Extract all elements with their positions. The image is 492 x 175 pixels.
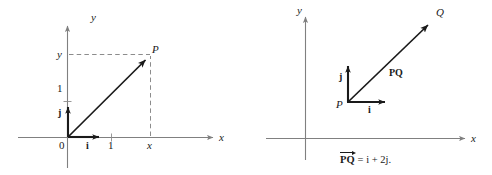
vector-pq-label: PQ xyxy=(389,63,403,79)
unit-vector-i-label: i xyxy=(368,105,371,115)
figure-caption: PQ= i + 2j. xyxy=(340,154,391,165)
unit-vector-j-label: j xyxy=(58,108,61,118)
x-coordinate-label: x xyxy=(147,140,152,151)
position-vector-arrow xyxy=(68,60,146,137)
y-axis-label: y xyxy=(297,5,302,16)
position-vector-panel: y x 0 i 1 x j 1 y P xyxy=(0,0,246,175)
caption-equation: = i + 2j. xyxy=(358,154,391,165)
x-tick-one-label: 1 xyxy=(108,140,114,151)
unit-vector-j-label: j xyxy=(339,72,342,82)
point-p-label: P xyxy=(336,99,343,110)
y-coordinate-label: y xyxy=(57,49,62,60)
point-p-label: P xyxy=(152,44,159,55)
vector-pq-arrow xyxy=(348,25,428,102)
x-axis-label: x xyxy=(219,132,224,143)
x-axis-label: x xyxy=(471,133,476,144)
origin-label: 0 xyxy=(59,140,65,151)
pq-vector-graphic xyxy=(246,0,492,175)
position-vector-graphic xyxy=(0,0,246,175)
caption-vector-pq-text: PQ xyxy=(340,154,355,165)
pq-vector-panel: y x P Q i j PQ PQ= i + 2j. xyxy=(246,0,492,175)
y-axis-label: y xyxy=(91,12,96,23)
point-q-label: Q xyxy=(436,7,444,18)
caption-vector-pq: PQ xyxy=(340,154,355,165)
unit-vector-i-label: i xyxy=(86,141,89,151)
y-tick-one-label: 1 xyxy=(57,83,63,94)
vector-figure: y x 0 i 1 x j 1 y P xyxy=(0,0,492,175)
vector-pq-label-text: PQ xyxy=(389,68,403,78)
